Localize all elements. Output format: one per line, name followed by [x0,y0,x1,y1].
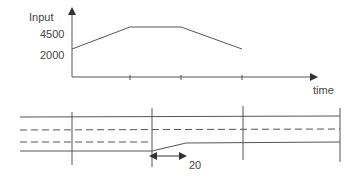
y-tick-label-4500: 4500 [40,28,64,40]
diagram-canvas: Input 4500 2000 time 20 [0,0,362,179]
y-tick-label-2000: 2000 [40,49,64,61]
input-time-chart: Input 4500 2000 time [29,9,334,96]
dimension-label: 20 [189,159,201,171]
upper-dashed-line [20,129,340,130]
input-profile-line [72,27,242,49]
x-axis-label: time [313,84,334,96]
section-diagram: 20 [20,106,340,171]
top-solid-line [20,116,340,117]
bottom-solid-line [20,142,340,151]
y-axis-label: Input [29,11,53,23]
